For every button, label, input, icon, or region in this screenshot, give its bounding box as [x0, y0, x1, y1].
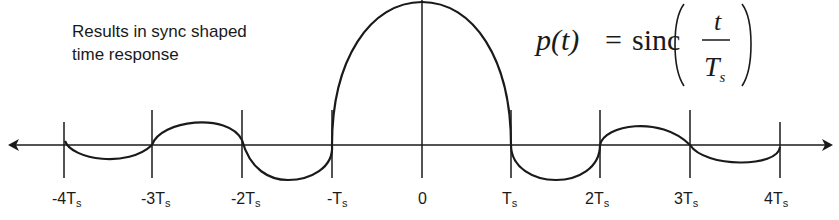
formula-equals: = — [605, 23, 622, 56]
tick-labels: -4Ts -3Ts -2Ts -Ts 0 Ts 2Ts 3Ts 4Ts — [52, 190, 789, 209]
tick-label: -Ts — [327, 190, 348, 209]
tick-label: -4Ts — [52, 190, 82, 209]
tick-label: -3Ts — [141, 190, 171, 209]
tick-label: 2Ts — [585, 190, 610, 209]
formula-lhs: p(t) — [534, 23, 579, 57]
tick-label: 0 — [418, 190, 427, 207]
right-paren-icon — [742, 4, 751, 86]
formula-function: sinc — [632, 23, 680, 56]
formula-denominator: Ts — [704, 51, 726, 85]
sinc-formula: p(t) = sinc t Ts — [534, 4, 751, 86]
sinc-diagram: -4Ts -3Ts -2Ts -Ts 0 Ts 2Ts 3Ts 4Ts p(t)… — [0, 0, 839, 220]
formula-numerator: t — [714, 7, 722, 36]
tick-label: 4Ts — [764, 190, 789, 209]
tick-label: -2Ts — [231, 190, 261, 209]
tick-label: 3Ts — [674, 190, 699, 209]
tick-label: Ts — [502, 190, 518, 209]
